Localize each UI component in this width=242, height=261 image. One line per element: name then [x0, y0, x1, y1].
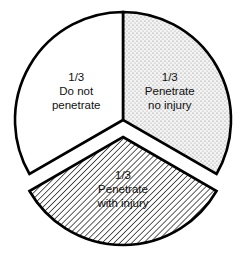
- slice-fraction-label: 1/3: [162, 71, 178, 83]
- slice-label-line: Penetrate: [145, 85, 195, 97]
- pie-slices: [15, 12, 231, 245]
- slice-label-line: Do not: [59, 85, 94, 97]
- slice-label-line: no injury: [148, 99, 192, 111]
- slice-fraction-label: 1/3: [68, 71, 84, 83]
- slice-label-line: Penetrate: [98, 183, 148, 195]
- pie-chart: 1/3Penetrateno injury1/3Penetratewith in…: [0, 0, 242, 261]
- slice-label-line: penetrate: [52, 99, 101, 111]
- slice-fraction-label: 1/3: [115, 169, 131, 181]
- slice-label-line: with injury: [96, 197, 148, 209]
